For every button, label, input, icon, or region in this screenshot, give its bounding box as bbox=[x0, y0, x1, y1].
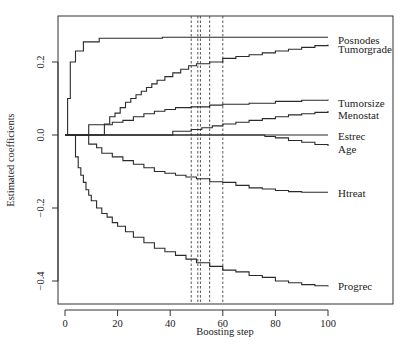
series-label-htreat: Htreat bbox=[338, 187, 365, 199]
line-posnodes bbox=[65, 37, 328, 135]
x-tick-label: 100 bbox=[320, 318, 336, 329]
series-label-age: Age bbox=[338, 143, 356, 155]
series-labels: PosnodesTumorgradeTumorsizeMenostatEstre… bbox=[338, 34, 392, 292]
line-progrec bbox=[65, 135, 328, 287]
x-tick-label: 0 bbox=[62, 318, 67, 329]
series-label-tumorgrade: Tumorgrade bbox=[338, 43, 392, 55]
y-tick-label: −0.2 bbox=[35, 198, 46, 217]
y-tick-label: −0.4 bbox=[35, 271, 46, 291]
line-htreat bbox=[65, 135, 328, 192]
x-tick-label: 20 bbox=[112, 318, 123, 329]
line-age bbox=[65, 135, 328, 146]
y-tick-label: 0.0 bbox=[35, 128, 46, 141]
coefficient-path-chart: −0.4−0.20.00.2 020406080100 PosnodesTumo… bbox=[0, 0, 408, 354]
series-label-tumorsize: Tumorsize bbox=[338, 97, 385, 109]
x-tick-label: 80 bbox=[270, 318, 281, 329]
y-axis: −0.4−0.20.00.2 bbox=[35, 55, 58, 290]
x-axis-label: Boosting step bbox=[196, 326, 253, 337]
series-label-progrec: Progrec bbox=[338, 280, 372, 292]
plot-frame bbox=[58, 16, 393, 304]
y-axis-label: Estimated coefficients bbox=[5, 113, 16, 206]
coefficient-lines bbox=[65, 37, 328, 286]
y-tick-label: 0.2 bbox=[35, 55, 46, 68]
x-tick-label: 40 bbox=[165, 318, 176, 329]
series-label-estrec: Estrec bbox=[338, 130, 366, 142]
line-tumorgrade bbox=[65, 45, 328, 136]
series-label-menostat: Menostat bbox=[338, 109, 379, 121]
